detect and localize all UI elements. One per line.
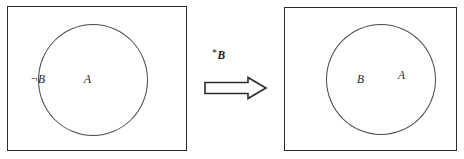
revision-operator-group: *B [200, 48, 272, 103]
right-arrow-icon [204, 76, 268, 100]
belief-revision-figure: ¬B A *B B A [0, 0, 464, 159]
label-a-before: A [84, 74, 91, 86]
label-b-after: B [357, 74, 364, 86]
label-a-after: A [398, 70, 405, 82]
revision-operator-label: *B [212, 48, 225, 61]
panel-after-revision: B A [284, 7, 457, 151]
panel-before-revision: ¬B A [7, 6, 187, 151]
belief-set-circle-after [326, 24, 436, 135]
belief-set-circle-before [38, 24, 148, 136]
label-not-b: ¬B [31, 74, 45, 86]
